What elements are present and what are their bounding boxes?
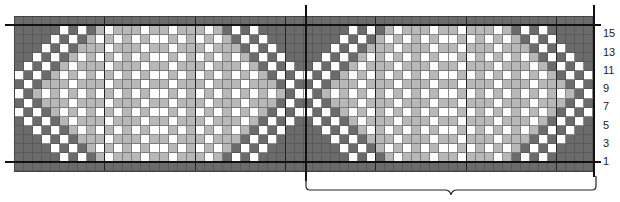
chart-cell: [196, 99, 205, 108]
chart-cell: [196, 80, 205, 89]
chart-cell: [51, 108, 60, 117]
chart-cell: [60, 80, 69, 89]
chart-cell: [187, 44, 196, 53]
chart-cell: [376, 135, 385, 144]
chart-cell: [421, 162, 430, 171]
chart-cell: [575, 80, 584, 89]
chart-cell: [467, 144, 476, 153]
chart-cell: [503, 135, 512, 144]
chart-cell: [494, 53, 503, 62]
chart-cell: [476, 144, 485, 153]
chart-cell: [449, 126, 458, 135]
chart-cell: [114, 99, 123, 108]
chart-cell: [250, 162, 259, 171]
chart-cell: [358, 26, 367, 35]
chart-cell: [458, 162, 467, 171]
chart-cell: [141, 89, 150, 98]
chart-cell: [548, 53, 557, 62]
chart-cell: [557, 71, 566, 80]
chart-cell: [503, 26, 512, 35]
chart-cell: [557, 144, 566, 153]
chart-cell: [322, 71, 331, 80]
chart-cell: [69, 99, 78, 108]
chart-cell: [187, 135, 196, 144]
chart-cell: [223, 144, 232, 153]
chart-cell: [214, 99, 223, 108]
chart-cell: [449, 80, 458, 89]
chart-cell: [132, 162, 141, 171]
chart-cell: [485, 53, 494, 62]
chart-cell: [15, 89, 24, 98]
chart-cell: [385, 99, 394, 108]
chart-cell: [286, 144, 295, 153]
chart-cell: [24, 135, 33, 144]
chart-cell: [141, 35, 150, 44]
chart-cell: [105, 89, 114, 98]
chart-cell: [178, 117, 187, 126]
chart-cell: [277, 117, 286, 126]
chart-cell: [503, 44, 512, 53]
chart-cell: [349, 89, 358, 98]
chart-cell: [539, 135, 548, 144]
chart-cell: [376, 108, 385, 117]
chart-cell: [78, 117, 87, 126]
chart-cell: [178, 108, 187, 117]
chart-cell: [548, 144, 557, 153]
chart-cell: [123, 71, 132, 80]
chart-cell: [259, 44, 268, 53]
chart-cell: [15, 71, 24, 80]
chart-cell: [196, 108, 205, 117]
chart-cell: [105, 144, 114, 153]
row-label: 13: [603, 46, 615, 58]
chart-cell: [96, 26, 105, 35]
chart-cell: [196, 44, 205, 53]
chart-cell: [458, 135, 467, 144]
chart-cell: [223, 44, 232, 53]
chart-cell: [169, 126, 178, 135]
chart-cell: [367, 135, 376, 144]
chart-cell: [33, 126, 42, 135]
chart-cell: [105, 62, 114, 71]
chart-cell: [349, 108, 358, 117]
chart-cell: [530, 71, 539, 80]
chart-cell: [33, 135, 42, 144]
chart-cell: [449, 108, 458, 117]
chart-cell: [421, 117, 430, 126]
chart-cell: [340, 117, 349, 126]
chart-cell: [250, 35, 259, 44]
chart-cell: [530, 144, 539, 153]
chart-cell: [160, 71, 169, 80]
chart-cell: [367, 144, 376, 153]
chart-cell: [385, 26, 394, 35]
chart-cell: [150, 135, 159, 144]
chart-cell: [313, 117, 322, 126]
chart-cell: [539, 126, 548, 135]
chart-cell: [458, 89, 467, 98]
chart-cell: [566, 62, 575, 71]
chart-cell: [439, 26, 448, 35]
chart-cell: [331, 126, 340, 135]
chart-cell: [458, 126, 467, 135]
chart-cell: [51, 144, 60, 153]
chart-cell: [96, 126, 105, 135]
chart-cell: [150, 126, 159, 135]
chart-cell: [87, 26, 96, 35]
chart-cell: [150, 44, 159, 53]
chart-cell: [367, 71, 376, 80]
chart-cell: [358, 162, 367, 171]
chart-cell: [42, 89, 51, 98]
chart-cell: [178, 126, 187, 135]
chart-cell: [340, 35, 349, 44]
chart-cell: [358, 35, 367, 44]
chart-cell: [105, 117, 114, 126]
chart-cell: [494, 99, 503, 108]
chart-cell: [503, 35, 512, 44]
chart-cell: [123, 144, 132, 153]
chart-cell: [340, 26, 349, 35]
chart-cell: [494, 89, 503, 98]
chart-cell: [557, 53, 566, 62]
chart-cell: [403, 26, 412, 35]
chart-cell: [367, 99, 376, 108]
chart-cell: [367, 162, 376, 171]
chart-cell: [178, 144, 187, 153]
